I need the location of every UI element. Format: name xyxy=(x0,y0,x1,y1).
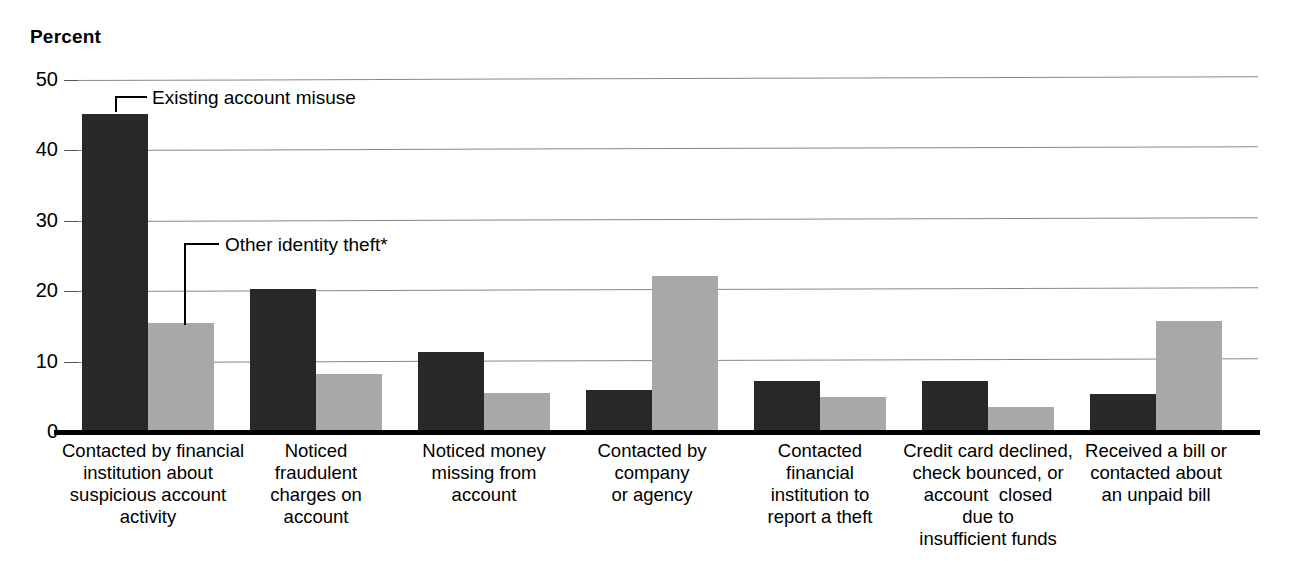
category-label-line: company xyxy=(566,462,738,484)
category-label-line: an unpaid bill xyxy=(1070,484,1242,506)
y-tick-label-40: 40 xyxy=(0,139,58,159)
category-label-line: check bounced, or xyxy=(902,462,1074,484)
chart-page: Percent 01020304050 Contacted by financi… xyxy=(0,0,1292,573)
category-label-line: account xyxy=(230,506,402,528)
category-label-line: report a theft xyxy=(734,506,906,528)
bar-other-identity-theft-4 xyxy=(820,397,886,432)
y-tick-mark-30 xyxy=(64,221,78,222)
bars-group xyxy=(66,80,1258,432)
annotation-label-existing-account-misuse: Existing account misuse xyxy=(152,88,356,107)
bar-other-identity-theft-2 xyxy=(484,393,550,432)
y-tick-mark-20 xyxy=(64,291,78,292)
plot-area xyxy=(66,80,1258,432)
bar-existing-account-misuse-5 xyxy=(922,381,988,432)
annotation-leader-vertical-1 xyxy=(184,243,186,325)
bar-existing-account-misuse-2 xyxy=(418,352,484,432)
bar-other-identity-theft-3 xyxy=(652,276,718,432)
bar-other-identity-theft-0 xyxy=(148,323,214,432)
category-label-line: due to xyxy=(902,506,1074,528)
category-label-1: Noticedfraudulentcharges onaccount xyxy=(230,440,402,528)
y-tick-mark-40 xyxy=(64,150,78,151)
y-tick-label-30: 30 xyxy=(0,210,58,230)
category-label-line: charges on xyxy=(230,484,402,506)
y-tick-label-20: 20 xyxy=(0,280,58,300)
category-label-3: Contacted bycompanyor agency xyxy=(566,440,738,506)
annotation-leader-horizontal-0 xyxy=(115,96,147,98)
category-label-line: Noticed money xyxy=(398,440,570,462)
category-label-line: or agency xyxy=(566,484,738,506)
category-label-line: Received a bill or xyxy=(1070,440,1242,462)
category-label-line: contacted about xyxy=(1070,462,1242,484)
bar-other-identity-theft-5 xyxy=(988,407,1054,432)
category-label-2: Noticed moneymissing fromaccount xyxy=(398,440,570,506)
category-label-line: Contacted by financial xyxy=(62,440,234,462)
y-tick-label-10: 10 xyxy=(0,351,58,371)
bar-existing-account-misuse-3 xyxy=(586,390,652,432)
annotation-leader-horizontal-1 xyxy=(184,243,219,245)
bar-other-identity-theft-6 xyxy=(1156,321,1222,432)
category-label-line: institution about xyxy=(62,462,234,484)
annotation-label-other-identity-theft: Other identity theft* xyxy=(225,235,388,254)
y-tick-mark-10 xyxy=(64,362,78,363)
category-label-0: Contacted by financialinstitution abouts… xyxy=(62,440,234,528)
category-label-line: account closed xyxy=(902,484,1074,506)
y-axis-title: Percent xyxy=(30,26,101,48)
category-label-line: missing from xyxy=(398,462,570,484)
category-label-line: suspicious account xyxy=(62,484,234,506)
category-label-line: Contacted by xyxy=(566,440,738,462)
category-label-5: Credit card declined,check bounced, orac… xyxy=(902,440,1074,550)
category-label-line: Noticed xyxy=(230,440,402,462)
annotation-leader-vertical-0 xyxy=(115,96,117,112)
y-tick-label-50: 50 xyxy=(0,69,58,89)
category-label-line: Credit card declined, xyxy=(902,440,1074,462)
category-label-line: account xyxy=(398,484,570,506)
x-axis-category-labels: Contacted by financialinstitution abouts… xyxy=(16,440,1284,570)
x-axis-baseline xyxy=(54,430,1260,435)
bar-existing-account-misuse-6 xyxy=(1090,394,1156,432)
category-label-6: Received a bill orcontacted aboutan unpa… xyxy=(1070,440,1242,506)
category-label-line: Contacted xyxy=(734,440,906,462)
y-tick-label-0: 0 xyxy=(0,421,58,441)
category-label-4: Contactedfinancialinstitution toreport a… xyxy=(734,440,906,528)
category-label-line: institution to xyxy=(734,484,906,506)
category-label-line: insufficient funds xyxy=(902,528,1074,550)
bar-other-identity-theft-1 xyxy=(316,374,382,432)
bar-existing-account-misuse-4 xyxy=(754,381,820,432)
bar-existing-account-misuse-0 xyxy=(82,114,148,432)
bar-existing-account-misuse-1 xyxy=(250,289,316,432)
category-label-line: activity xyxy=(62,506,234,528)
category-label-line: fraudulent xyxy=(230,462,402,484)
category-label-line: financial xyxy=(734,462,906,484)
y-tick-mark-50 xyxy=(64,80,78,81)
